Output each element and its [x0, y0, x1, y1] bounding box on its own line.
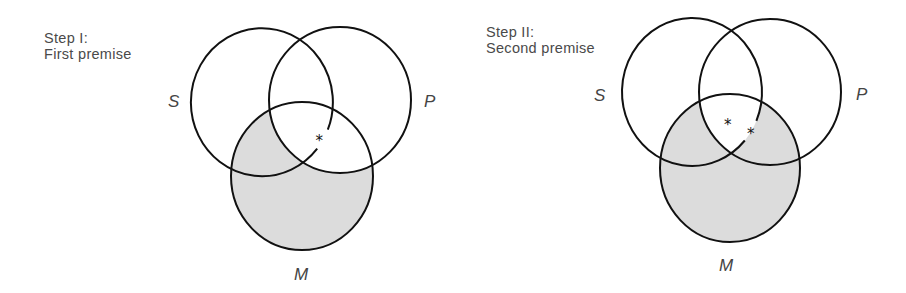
venn-diagram-step-2: * * — [622, 18, 841, 242]
asterisk-mark: * — [316, 132, 324, 150]
venn-diagrams: * * * — [0, 0, 906, 293]
asterisk-mark-1: * — [724, 116, 732, 134]
asterisk-mark-2: * — [747, 125, 755, 143]
venn-diagram-step-1: * — [191, 27, 411, 250]
